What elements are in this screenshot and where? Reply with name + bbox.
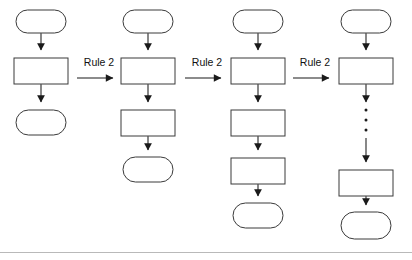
transition-2-group: Rule 2 xyxy=(185,56,222,78)
stage-2-process-2 xyxy=(121,110,175,136)
stage-2-group xyxy=(121,10,175,182)
stage-3-process-1 xyxy=(231,58,285,84)
stage-4-start-terminal xyxy=(341,10,391,33)
derivation-diagram: Rule 2 Rule 2 Rule xyxy=(0,0,412,260)
stage-1-group xyxy=(14,10,68,135)
stage-2-end-terminal xyxy=(123,157,173,182)
transition-3-label: Rule 2 xyxy=(300,56,331,68)
stage-1-end-terminal xyxy=(16,110,66,135)
transition-3-group: Rule 2 xyxy=(293,56,330,78)
stage-2-start-terminal xyxy=(123,10,173,33)
stage-1-start-terminal xyxy=(16,10,66,33)
stage-3-end-terminal xyxy=(233,203,283,228)
vertical-ellipsis-icon xyxy=(365,109,368,132)
stage-1-process-1 xyxy=(14,58,68,84)
stage-3-group xyxy=(231,10,285,228)
stage-3-process-2 xyxy=(231,110,285,136)
transition-1-group: Rule 2 xyxy=(77,56,114,78)
stage-4-process-1 xyxy=(339,58,393,84)
diagram-canvas: Rule 2 Rule 2 Rule xyxy=(0,0,412,260)
stage-4-process-last xyxy=(339,170,393,196)
stage-3-start-terminal xyxy=(233,10,283,33)
stage-2-process-1 xyxy=(121,58,175,84)
stage-4-group xyxy=(339,10,393,239)
stage-4-end-terminal xyxy=(341,212,391,239)
stage-3-process-3 xyxy=(231,158,285,184)
transition-2-label: Rule 2 xyxy=(192,56,223,68)
transition-1-label: Rule 2 xyxy=(84,56,115,68)
